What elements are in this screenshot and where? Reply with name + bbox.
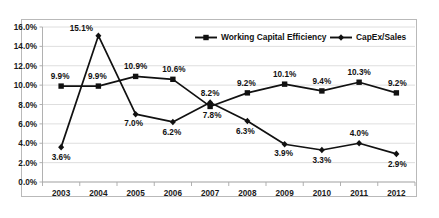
series-working-capital-efficiency [58, 74, 399, 109]
data-point-label: 3.3% [313, 156, 332, 165]
line-chart: 0.0%2.0%4.0%6.0%8.0%10.0%12.0%14.0%16.0%… [0, 0, 439, 218]
square-marker-icon [58, 83, 63, 88]
diamond-marker-icon [95, 32, 101, 39]
legend-label: Working Capital Efficiency [221, 32, 327, 42]
data-point-label: 9.2% [237, 79, 256, 88]
series-polyline [61, 76, 396, 106]
gridlines [43, 27, 416, 182]
data-point-label: 6.3% [236, 127, 255, 136]
data-point-label: 15.1% [70, 24, 94, 33]
x-tick-label: 2005 [127, 189, 146, 198]
data-point-label: 9.9% [88, 72, 107, 81]
y-tick-label: 14.0% [14, 42, 38, 51]
diamond-marker-icon [393, 151, 399, 158]
x-tick-label: 2004 [89, 189, 108, 198]
x-tick-label: 2007 [201, 189, 220, 198]
data-point-label: 9.2% [388, 79, 407, 88]
y-axis: 0.0%2.0%4.0%6.0%8.0%10.0%12.0%14.0%16.0% [14, 23, 43, 187]
data-point-label: 4.0% [350, 129, 369, 138]
diamond-marker-icon [356, 140, 362, 147]
diamond-marker-icon [58, 144, 64, 151]
y-tick-label: 10.0% [14, 81, 38, 90]
data-point-label: 7.8% [203, 111, 222, 120]
square-marker-icon [394, 90, 399, 95]
data-point-label: 8.2% [201, 89, 220, 98]
x-tick-label: 2006 [164, 189, 183, 198]
data-point-label: 9.9% [51, 72, 70, 81]
square-marker-icon [356, 80, 361, 85]
data-point-label: 10.9% [124, 62, 148, 71]
x-axis: 2003200420052006200720082009201020112012 [43, 182, 416, 198]
data-point-label: 3.6% [52, 153, 71, 162]
x-tick-label: 2009 [276, 189, 295, 198]
y-tick-label: 12.0% [14, 62, 38, 71]
y-tick-label: 16.0% [14, 23, 38, 32]
diamond-marker-icon [338, 34, 344, 41]
chart-legend: Working Capital EfficiencyCapEx/Sales [195, 32, 407, 42]
data-point-label: 9.4% [313, 77, 332, 86]
y-tick-label: 2.0% [18, 159, 37, 168]
y-tick-label: 0.0% [18, 178, 37, 187]
y-tick-label: 4.0% [18, 139, 37, 148]
diamond-marker-icon [319, 147, 325, 154]
data-point-label: 10.3% [348, 68, 372, 77]
square-marker-icon [282, 81, 287, 86]
data-point-label: 2.9% [388, 160, 407, 169]
x-tick-label: 2011 [350, 189, 368, 198]
data-point-label: 7.0% [124, 119, 143, 128]
data-point-label: 10.1% [273, 70, 297, 79]
data-point-label: 6.2% [163, 128, 182, 137]
square-marker-icon [96, 83, 101, 88]
x-tick-label: 2008 [238, 189, 257, 198]
data-labels: 9.9%9.9%10.9%10.6%7.8%9.2%10.1%9.4%10.3%… [51, 24, 408, 169]
chart-container: 0.0%2.0%4.0%6.0%8.0%10.0%12.0%14.0%16.0%… [0, 0, 439, 218]
series-capex-sales [58, 32, 399, 157]
data-point-label: 10.6% [162, 65, 186, 74]
diamond-marker-icon [133, 111, 139, 118]
x-tick-label: 2012 [387, 189, 406, 198]
square-marker-icon [203, 35, 208, 40]
legend-label: CapEx/Sales [356, 32, 407, 42]
y-tick-label: 6.0% [18, 120, 37, 129]
x-tick-label: 2003 [52, 189, 71, 198]
series-polyline [61, 36, 396, 154]
y-tick-label: 8.0% [18, 101, 37, 110]
data-point-label: 3.9% [274, 149, 293, 158]
square-marker-icon [319, 88, 324, 93]
square-marker-icon [245, 90, 250, 95]
x-tick-label: 2010 [313, 189, 332, 198]
square-marker-icon [170, 77, 175, 82]
square-marker-icon [133, 74, 138, 79]
